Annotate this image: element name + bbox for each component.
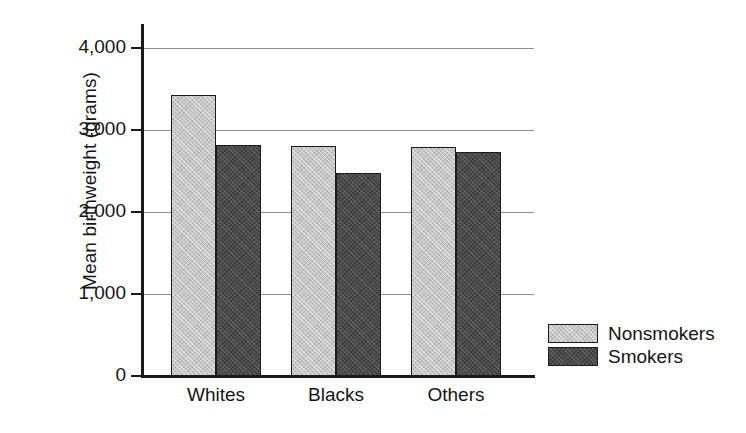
bar-others-nonsmokers [411,147,456,376]
bar-blacks-nonsmokers [291,146,336,376]
x-axis-label-whites: Whites [156,384,276,406]
legend-swatch-nonsmokers [548,324,598,343]
legend-label-smokers: Smokers [608,346,683,368]
bar-chart-figure: Mean birthweight (grams) 01,0002,0003,00… [0,0,746,433]
bar-whites-nonsmokers [171,95,216,376]
legend: Nonsmokers Smokers [548,323,715,369]
legend-swatch-smokers [548,347,598,366]
legend-label-nonsmokers: Nonsmokers [608,323,715,345]
bars-layer [0,0,746,376]
bar-others-smokers [456,152,501,376]
x-axis-label-blacks: Blacks [276,384,396,406]
bar-whites-smokers [216,145,261,376]
legend-item-smokers[interactable]: Smokers [548,346,715,367]
plot-area [0,0,746,376]
legend-item-nonsmokers[interactable]: Nonsmokers [548,323,715,344]
x-axis-label-others: Others [396,384,516,406]
bar-blacks-smokers [336,173,381,376]
